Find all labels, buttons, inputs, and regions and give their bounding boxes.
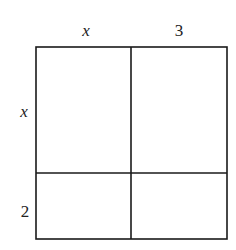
left-label-x: x	[19, 102, 28, 121]
area-model-diagram: x 3 x 2	[0, 0, 236, 250]
top-label-x: x	[81, 21, 90, 40]
left-label-2: 2	[21, 202, 30, 221]
top-label-3: 3	[175, 21, 184, 40]
